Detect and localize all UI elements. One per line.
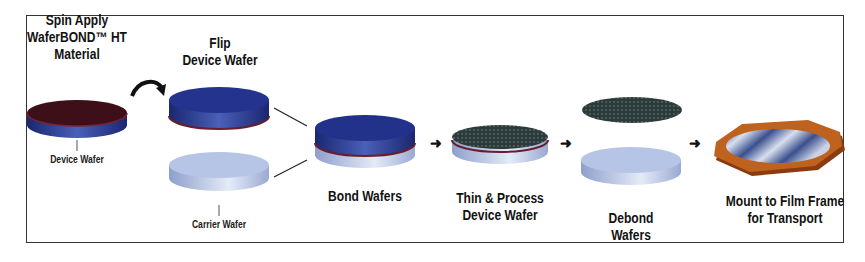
flipped-device-wafer [169, 87, 269, 129]
step-bond-label: Bond Wafers [313, 188, 416, 205]
arrow-icon-2: ➜ [560, 135, 572, 151]
step-thin-label: Thin & Process Device Wafer [448, 190, 551, 224]
arrow-icon-3: ➜ [689, 135, 701, 151]
debonded-device-wafer [582, 97, 682, 123]
step-debond-label: Debond Wafers [579, 210, 682, 244]
device-wafer-coated [27, 100, 127, 138]
step-mount-label: Mount to Film Frame for Transport [721, 193, 850, 227]
device-wafer-callout: Device Wafer [34, 154, 120, 166]
debonded-carrier-wafer [581, 147, 681, 185]
merge-line-top [274, 108, 307, 126]
step-spin-apply-label: Spin Apply WaferBOND™ HT Material [16, 12, 138, 63]
carrier-wafer [169, 152, 269, 191]
carrier-wafer-callout: Carrier Wafer [176, 219, 262, 231]
merge-line-bottom [274, 160, 307, 177]
step-flip-label: Flip Device Wafer [168, 35, 271, 69]
arrow-icon-1: ➜ [430, 135, 442, 151]
thinned-wafer-stack [452, 125, 548, 164]
film-frame [714, 120, 845, 176]
bonded-wafer-stack [315, 115, 415, 168]
